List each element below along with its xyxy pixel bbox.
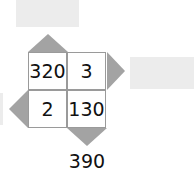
answer-box-left[interactable] — [0, 93, 3, 125]
grid-cell-bottom-left: 2 — [28, 90, 67, 128]
answer-box-top[interactable] — [16, 0, 79, 27]
arrow-triangle-left — [9, 90, 28, 128]
grid-cell-bottom-right: 130 — [67, 90, 106, 128]
arrow-triangle-top — [28, 34, 68, 52]
grid-cell-top-left: 320 — [28, 52, 67, 90]
grid-cell-top-right: 3 — [67, 52, 106, 90]
bottom-result: 390 — [57, 150, 117, 172]
arrow-triangle-bottom — [67, 128, 107, 146]
arrow-triangle-right — [107, 52, 125, 90]
answer-box-right[interactable] — [130, 57, 194, 89]
